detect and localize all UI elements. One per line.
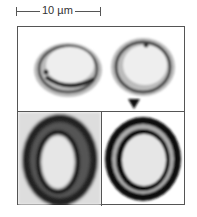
- scale-bar: 10 µm: [16, 3, 101, 19]
- scale-label: 10 µm: [40, 4, 75, 16]
- panel-top: [18, 27, 184, 111]
- panel-bottom-right: [102, 112, 184, 205]
- micrograph-frame: [17, 26, 185, 205]
- scale-tick-right: [100, 7, 101, 16]
- panel-bottom-left: [18, 112, 101, 205]
